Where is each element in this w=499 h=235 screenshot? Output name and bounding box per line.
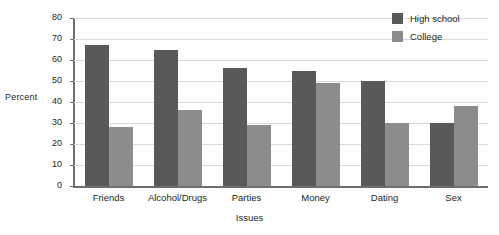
gridline — [74, 60, 488, 61]
y-tick-label: 70 — [52, 33, 62, 43]
gridline — [74, 144, 488, 145]
legend-label-college: College — [410, 31, 442, 42]
x-category-label-dating: Dating — [350, 192, 419, 203]
legend-item-college: College — [392, 30, 460, 43]
bar-money-college — [316, 83, 340, 186]
y-tick-label: 0 — [57, 180, 62, 190]
bar-friends-high-school — [85, 45, 109, 186]
bar-dating-college — [385, 123, 409, 186]
tick-mark — [70, 102, 74, 103]
x-category-label-friends: Friends — [74, 192, 143, 203]
bar-alcohol-drugs-college — [178, 110, 202, 186]
y-tick-label: 50 — [52, 75, 62, 85]
x-category-label-money: Money — [281, 192, 350, 203]
tick-mark — [70, 165, 74, 166]
tick-mark — [70, 81, 74, 82]
legend: High school College — [392, 12, 460, 48]
gridline — [74, 81, 488, 82]
tick-mark — [70, 186, 74, 187]
x-axis-label: Issues — [0, 212, 499, 223]
legend-label-high-school: High school — [410, 13, 460, 24]
tick-mark — [70, 123, 74, 124]
gridline — [74, 123, 488, 124]
gridline — [74, 165, 488, 166]
bar-dating-high-school — [361, 81, 385, 186]
x-category-label-sex: Sex — [419, 192, 488, 203]
y-tick-label: 30 — [52, 117, 62, 127]
bar-parties-college — [247, 125, 271, 186]
bar-sex-high-school — [430, 123, 454, 186]
tick-mark — [70, 18, 74, 19]
bar-alcohol-drugs-high-school — [154, 50, 178, 187]
bar-parties-high-school — [223, 68, 247, 186]
tick-mark — [70, 39, 74, 40]
x-category-label-alcohol-drugs: Alcohol/Drugs — [143, 192, 212, 203]
y-axis-label: Percent — [5, 92, 37, 102]
gridline — [74, 102, 488, 103]
y-tick-label: 60 — [52, 54, 62, 64]
tick-mark — [70, 60, 74, 61]
y-tick-label: 10 — [52, 159, 62, 169]
y-tick-label: 80 — [52, 12, 62, 22]
bar-sex-college — [454, 106, 478, 186]
bar-friends-college — [109, 127, 133, 186]
legend-swatch-icon-high-school — [392, 13, 403, 24]
y-tick-label: 40 — [52, 96, 62, 106]
x-category-label-parties: Parties — [212, 192, 281, 203]
legend-item-high-school: High school — [392, 12, 460, 25]
bar-chart: Percent 01020304050607080 FriendsAlcohol… — [0, 0, 499, 235]
x-axis-line — [73, 186, 488, 188]
y-tick-label: 20 — [52, 138, 62, 148]
bar-money-high-school — [292, 71, 316, 187]
legend-swatch-icon-college — [392, 31, 403, 42]
tick-mark — [70, 144, 74, 145]
